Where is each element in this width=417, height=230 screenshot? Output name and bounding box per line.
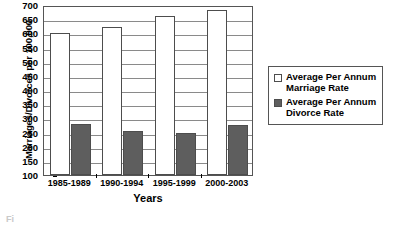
bar-marriage: [155, 16, 175, 175]
bar-marriage: [102, 27, 122, 175]
x-axis-tick-mark: [148, 174, 149, 178]
chart-legend: Average Per AnnumMarriage RateAverage Pe…: [268, 66, 383, 125]
legend-item-label-line2: Marriage Rate: [286, 83, 376, 94]
y-axis-tick-label: 200: [14, 143, 38, 153]
bar-group: [44, 7, 97, 175]
bar-divorce: [176, 133, 196, 175]
x-axis-tick-label: 1985-1989: [48, 178, 91, 188]
y-axis-tick-label: 450: [14, 72, 38, 82]
x-axis-tick-mark: [96, 174, 97, 178]
x-axis-tick-label: 1990-1994: [100, 178, 143, 188]
x-axis-tick-labels: 1985-19891990-19941995-19992000-2003: [43, 178, 253, 192]
legend-item-label: Average Per AnnumDivorce Rate: [286, 97, 376, 119]
y-axis-tick-label: 400: [14, 86, 38, 96]
bar-group: [149, 7, 202, 175]
y-axis-tick-label: 550: [14, 44, 38, 54]
x-axis-tick-label: 2000-2003: [205, 178, 248, 188]
y-axis-tick-mark: [53, 176, 57, 177]
bar-marriage: [207, 10, 227, 175]
y-axis-tick-label: 100: [14, 171, 38, 181]
legend-item: Average Per AnnumMarriage Rate: [274, 72, 376, 94]
bar-group: [202, 7, 255, 175]
y-axis-tick-labels: 100150200250300350400450500550600650700: [14, 6, 38, 176]
legend-item-label: Average Per AnnumMarriage Rate: [286, 72, 376, 94]
y-axis-tick-label: 300: [14, 115, 38, 125]
bar-chart-figure: Marriages/Divorces per 100,000 100150200…: [0, 0, 417, 230]
bar-divorce: [123, 131, 143, 175]
legend-item-label-line2: Divorce Rate: [286, 108, 376, 119]
bars-layer: [44, 7, 252, 175]
plot-area: [43, 6, 253, 176]
y-axis-tick-label: 150: [14, 157, 38, 167]
x-axis-title: Years: [43, 192, 253, 204]
y-axis-tick-label: 250: [14, 129, 38, 139]
legend-item: Average Per AnnumDivorce Rate: [274, 97, 376, 119]
bar-divorce: [228, 125, 248, 175]
legend-swatch-icon: [274, 74, 282, 82]
y-axis-tick-label: 700: [14, 1, 38, 11]
bar-divorce: [71, 124, 91, 175]
y-axis-tick-label: 650: [14, 15, 38, 25]
y-axis-tick-label: 500: [14, 58, 38, 68]
x-axis-tick-label: 1995-1999: [153, 178, 196, 188]
x-axis-tick-mark: [201, 174, 202, 178]
bar-group: [97, 7, 150, 175]
y-axis-tick-label: 600: [14, 30, 38, 40]
y-axis-tick-label: 350: [14, 100, 38, 110]
caption-fragment: Fi: [6, 214, 14, 224]
bar-marriage: [50, 33, 70, 175]
legend-swatch-icon: [274, 99, 282, 107]
